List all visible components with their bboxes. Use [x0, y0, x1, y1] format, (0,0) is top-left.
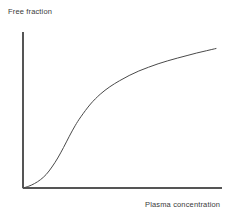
- free-fraction-curve: [23, 49, 216, 189]
- chart-figure: Free fraction Plasma concentration: [0, 0, 237, 217]
- plot-area: [0, 0, 237, 217]
